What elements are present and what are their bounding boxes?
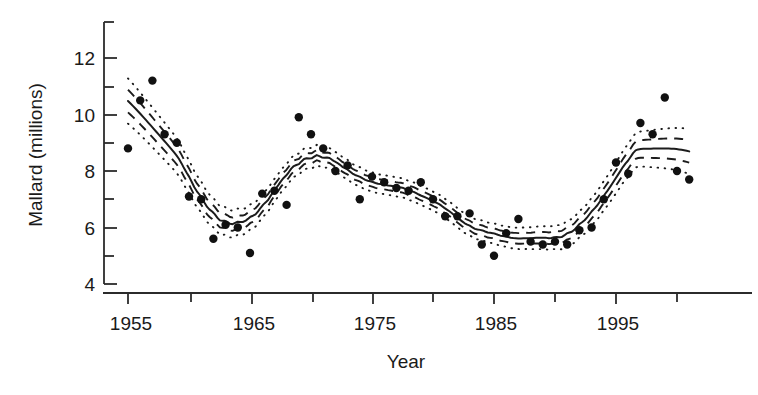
data-point	[478, 240, 486, 248]
data-point	[124, 144, 132, 152]
data-point	[246, 249, 254, 257]
data-point	[136, 96, 144, 104]
data-point	[221, 220, 229, 228]
data-point	[209, 235, 217, 243]
data-point	[368, 172, 376, 180]
data-point	[343, 161, 351, 169]
data-point	[648, 130, 656, 138]
data-point	[624, 170, 632, 178]
data-point	[673, 167, 681, 175]
x-axis-title: Year	[387, 351, 426, 372]
data-point	[234, 223, 242, 231]
data-point	[429, 195, 437, 203]
y-tick-label-6: 6	[84, 218, 95, 239]
data-point	[197, 195, 205, 203]
data-point	[502, 229, 510, 237]
y-tick-label-8: 8	[84, 161, 95, 182]
data-point	[307, 130, 315, 138]
data-point	[295, 113, 303, 121]
x-tick-label-1975: 1975	[354, 313, 396, 334]
data-point	[539, 240, 547, 248]
data-point	[514, 215, 522, 223]
data-point	[575, 226, 583, 234]
outer-band-upper	[128, 78, 689, 227]
data-point	[282, 201, 290, 209]
inner-band-lower	[128, 112, 689, 244]
data-point	[453, 212, 461, 220]
x-tick-label-1965: 1965	[233, 313, 275, 334]
x-axis-ticks	[128, 293, 677, 304]
y-axis-group: 12 10 8 6 4 Mallard (millions)	[25, 22, 117, 295]
y-tick-label-10: 10	[74, 105, 95, 126]
data-point	[148, 76, 156, 84]
outer-confidence-band	[128, 78, 689, 250]
data-point	[185, 192, 193, 200]
data-point	[636, 119, 644, 127]
data-point	[600, 195, 608, 203]
mallard-population-figure: 12 10 8 6 4 Mallard (millions) 1955	[0, 0, 758, 395]
data-point	[392, 184, 400, 192]
x-tick-label-1995: 1995	[597, 313, 639, 334]
data-point	[551, 237, 559, 245]
inner-confidence-band	[128, 90, 689, 244]
data-point	[563, 240, 571, 248]
data-point	[173, 139, 181, 147]
y-tick-label-12: 12	[74, 48, 95, 69]
data-point	[490, 252, 498, 260]
data-point	[587, 223, 595, 231]
x-axis-group: 1955 1965 1975 1985 1995 Year	[103, 293, 752, 372]
x-tick-label-1985: 1985	[475, 313, 517, 334]
data-point	[661, 93, 669, 101]
data-point	[258, 189, 266, 197]
data-point	[319, 144, 327, 152]
y-axis-ticks	[104, 22, 117, 284]
data-point	[685, 175, 693, 183]
data-point	[270, 187, 278, 195]
y-axis-title: Mallard (millions)	[25, 83, 46, 227]
data-point	[526, 237, 534, 245]
data-point	[380, 178, 388, 186]
data-point	[417, 178, 425, 186]
data-point	[441, 212, 449, 220]
data-point	[331, 167, 339, 175]
data-point	[356, 195, 364, 203]
data-point	[404, 187, 412, 195]
y-tick-label-4: 4	[84, 274, 95, 295]
data-point	[612, 158, 620, 166]
data-point	[160, 130, 168, 138]
x-tick-label-1955: 1955	[110, 313, 152, 334]
chart-canvas: 12 10 8 6 4 Mallard (millions) 1955	[0, 0, 758, 395]
data-point	[465, 209, 473, 217]
data-point-group	[124, 76, 694, 260]
